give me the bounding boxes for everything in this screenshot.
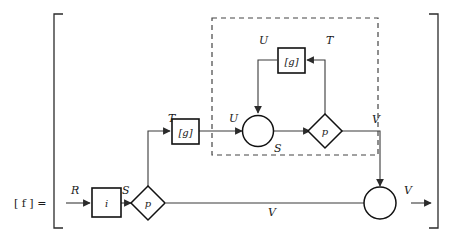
- node-p-diamond-inner-label: p: [322, 126, 329, 137]
- block-diagram: [ f ] = i p: [0, 0, 452, 238]
- node-g-box-outer-label: [g]: [178, 127, 192, 138]
- label-inner-out-V: V: [372, 113, 381, 126]
- wire-p-inner-feedback-T: [307, 60, 325, 114]
- figure-canvas: [ f ] = i p: [0, 0, 452, 238]
- node-p-diamond-left-label: p: [145, 198, 152, 209]
- wire-p-to-g-outer: [148, 131, 170, 186]
- label-bypass-V: V: [268, 206, 277, 219]
- lhs-label: [ f ] =: [14, 197, 46, 210]
- label-output-V: V: [404, 184, 413, 197]
- label-g-outer-out-U: U: [229, 112, 239, 125]
- wire-p-inner-to-output: [340, 131, 380, 186]
- bracket-left: [54, 14, 63, 228]
- node-i-label: i: [105, 198, 108, 209]
- bracket-right: [429, 14, 438, 228]
- dashed-subregion: [212, 18, 378, 155]
- label-inner-top-T: T: [326, 34, 335, 47]
- node-merge-circle-output[interactable]: [364, 187, 396, 219]
- label-inner-mid-S: S: [274, 142, 282, 155]
- node-merge-circle-inner[interactable]: [243, 116, 274, 147]
- label-inner-top-U: U: [259, 34, 269, 47]
- node-g-box-inner-label: [g]: [284, 56, 298, 67]
- wire-g-inner-to-merge-U: [258, 60, 277, 113]
- label-input-R: R: [70, 184, 79, 197]
- label-after-i-S: S: [122, 184, 130, 197]
